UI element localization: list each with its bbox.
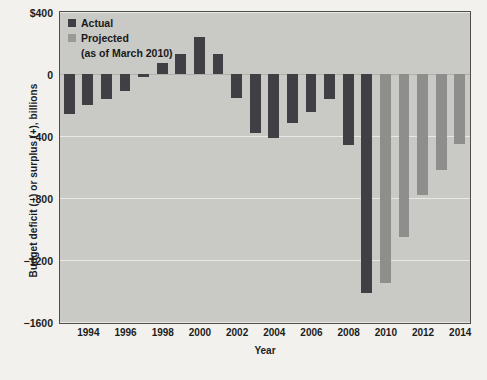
y-tick-−1600: −1600 [24, 317, 54, 329]
bar-2001 [213, 54, 224, 74]
x-tick-1994: 1994 [77, 327, 99, 338]
legend-label-actual: Actual [81, 17, 113, 29]
legend-swatch-projected-icon [68, 34, 76, 42]
bar-2005 [287, 74, 298, 123]
budget-deficit-chart: Budget deficit (−) or surplus (+), billi… [0, 0, 487, 380]
y-tick-−400: −400 [29, 131, 53, 143]
bar-2012 [417, 74, 428, 195]
bar-1996 [120, 74, 131, 91]
chart-legend: Actual Projected (as of March 2010) [68, 17, 173, 59]
x-axis-tick-labels: 1994199619982000200220042006200820102012… [59, 327, 471, 343]
gridline [60, 322, 470, 323]
bar-2004 [268, 74, 279, 138]
x-tick-2012: 2012 [412, 327, 434, 338]
bar-1998 [157, 63, 168, 74]
plot-area: Actual Projected (as of March 2010) [59, 11, 471, 324]
bar-2007 [324, 74, 335, 99]
bar-2011 [399, 74, 410, 237]
y-tick-0: 0 [47, 69, 53, 81]
bar-2002 [231, 74, 242, 98]
y-tick-−1200: −1200 [24, 255, 54, 267]
legend-label-projected: Projected [81, 32, 129, 44]
x-tick-2008: 2008 [338, 327, 360, 338]
x-axis-title: Year [59, 345, 471, 356]
bar-2006 [306, 74, 317, 112]
legend-item-actual: Actual [68, 17, 173, 29]
legend-sublabel-projected: (as of March 2010) [81, 47, 173, 59]
x-tick-2014: 2014 [449, 327, 471, 338]
bar-2003 [250, 74, 261, 133]
bar-2013 [436, 74, 447, 170]
x-tick-2006: 2006 [300, 327, 322, 338]
x-tick-2000: 2000 [189, 327, 211, 338]
bar-1995 [101, 74, 112, 99]
bar-2000 [194, 37, 205, 74]
bar-1997 [138, 74, 149, 77]
legend-item-projected: Projected [68, 32, 173, 44]
x-tick-1998: 1998 [152, 327, 174, 338]
y-axis-tick-labels: $4000−400−800−1200−1600 [0, 0, 58, 380]
bar-1999 [175, 54, 186, 74]
x-tick-2004: 2004 [263, 327, 285, 338]
x-tick-1996: 1996 [114, 327, 136, 338]
x-tick-2002: 2002 [226, 327, 248, 338]
bar-2008 [343, 74, 354, 145]
legend-swatch-actual-icon [68, 19, 76, 27]
y-tick-−800: −800 [29, 193, 53, 205]
gridline [60, 12, 470, 13]
y-tick-$400: $400 [30, 7, 53, 19]
bar-2014 [454, 74, 465, 144]
bar-1994 [82, 74, 93, 105]
x-tick-2010: 2010 [375, 327, 397, 338]
bar-1993 [64, 74, 75, 114]
bar-2009 [361, 74, 372, 293]
bar-2010 [380, 74, 391, 283]
gridline [60, 260, 470, 261]
